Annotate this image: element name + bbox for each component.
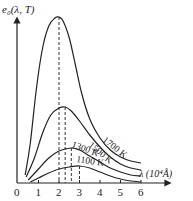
x-tick-label: 6 bbox=[138, 186, 144, 198]
x-tick-label: 2 bbox=[56, 186, 62, 198]
x-tick-label: 3 bbox=[77, 186, 83, 198]
y-axis-label: e₀(λ, T) bbox=[2, 3, 35, 16]
blackbody-radiation-chart: 0123456 e₀(λ, T) λ (10⁴Å) 1700 K 1500 K … bbox=[0, 0, 193, 201]
x-tick-label: 5 bbox=[118, 186, 124, 198]
curve-1100k bbox=[30, 166, 141, 182]
x-tick-label: 0 bbox=[14, 186, 20, 198]
plot-area: 0123456 e₀(λ, T) λ (10⁴Å) 1700 K 1500 K … bbox=[0, 0, 193, 201]
x-tick-label: 1 bbox=[36, 186, 42, 198]
x-axis-label: λ (10⁴Å) bbox=[138, 168, 173, 180]
x-tick-label: 4 bbox=[97, 186, 103, 198]
